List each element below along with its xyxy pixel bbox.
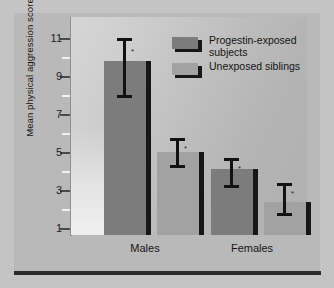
- legend-label-unexposed: Unexposed siblings: [209, 61, 314, 73]
- y-tick-minor-6: [62, 133, 70, 135]
- errorbar-cap-top-males-progestin: [117, 38, 132, 41]
- significance-mark-males-progestin: *: [131, 48, 134, 56]
- errorbar-cap-bottom-males-unexposed: [170, 165, 185, 168]
- significance-mark-females-unexposed: *: [291, 190, 294, 198]
- errorbar-males-unexposed: [176, 138, 179, 165]
- bar-shadow: [306, 202, 311, 235]
- significance-mark-females-progestin: *: [238, 165, 241, 173]
- y-tick-label-11: 11: [38, 33, 62, 44]
- errorbar-cap-bottom-females-progestin: [224, 185, 239, 188]
- chart-figure: Mean physical aggression score 11 9 7 5 …: [0, 0, 334, 288]
- errorbar-cap-bottom-females-unexposed: [277, 213, 292, 216]
- bar-shadow: [199, 152, 204, 235]
- y-tick-minor-8: [62, 95, 70, 97]
- legend-item-unexposed-siblings[interactable]: Unexposed siblings: [172, 62, 312, 79]
- y-tick-minor-2: [62, 209, 70, 211]
- errorbar-males-progestin: [123, 38, 126, 95]
- y-tick-label-1: 1: [38, 223, 62, 234]
- significance-mark-males-unexposed: *: [184, 145, 187, 153]
- bar-shadow: [253, 169, 258, 235]
- legend-item-progestin-exposed[interactable]: Progestin-exposedsubjects: [172, 36, 312, 53]
- errorbar-cap-top-males-unexposed: [170, 138, 185, 141]
- y-axis-title: Mean physical aggression score: [24, 0, 35, 143]
- bar-shadow: [146, 61, 151, 235]
- errorbar-females-progestin: [230, 158, 233, 185]
- y-tick-label-7: 7: [38, 109, 62, 120]
- y-tick-minor-10: [62, 57, 70, 59]
- x-axis-label-males: Males: [105, 242, 185, 254]
- legend-swatch-icon-unexposed: [172, 63, 198, 75]
- errorbar-cap-top-females-progestin: [224, 158, 239, 161]
- errorbar-cap-top-females-unexposed: [277, 183, 292, 186]
- errorbar-females-unexposed: [283, 183, 286, 213]
- chart-legend: Progestin-exposedsubjects Unexposed sibl…: [172, 36, 312, 86]
- legend-label-progestin-line2: subjects: [209, 46, 248, 58]
- legend-swatch-icon-progestin: [172, 37, 198, 49]
- figure-bottom-rule: [14, 271, 321, 275]
- x-axis-label-females: Females: [212, 242, 292, 254]
- errorbar-cap-bottom-males-progestin: [117, 95, 132, 98]
- y-tick-minor-4: [62, 171, 70, 173]
- legend-label-progestin: Progestin-exposedsubjects: [209, 35, 314, 58]
- y-tick-label-3: 3: [38, 185, 62, 196]
- y-tick-label-9: 9: [38, 71, 62, 82]
- y-tick-label-5: 5: [38, 147, 62, 158]
- legend-label-progestin-line1: Progestin-exposed: [209, 34, 297, 46]
